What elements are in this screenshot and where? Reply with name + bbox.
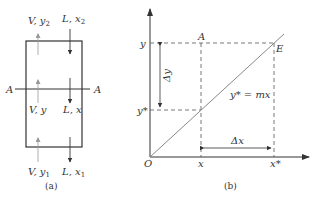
delta-x-label: Δx — [230, 135, 244, 146]
point-a-label: A — [197, 31, 205, 42]
origin-label: O — [144, 158, 152, 169]
x-label: x — [198, 158, 204, 169]
ystar-label: y* — [136, 105, 148, 116]
mid-vapor-label: V, y — [29, 104, 47, 115]
panel-b-operating-line-graph: O y y* x x* A E Δy Δx y* = mx (b) — [136, 9, 309, 191]
bottom-liquid-label: L, x1 — [61, 166, 85, 179]
top-liquid-label: L, x2 — [61, 13, 85, 26]
y-label: y — [139, 38, 146, 49]
point-e-label: E — [275, 43, 284, 54]
panel-a-column-diagram: A A V, y2 L, x2 V, y L, x V, y1 L, x1 (a… — [5, 13, 101, 191]
section-label-right: A — [93, 84, 101, 95]
column-box — [26, 41, 82, 147]
xstar-label: x* — [270, 158, 281, 169]
diagram-canvas: A A V, y2 L, x2 V, y L, x V, y1 L, x1 (a… — [0, 0, 312, 197]
bottom-vapor-label: V, y1 — [28, 166, 50, 179]
top-vapor-label: V, y2 — [28, 15, 50, 28]
equation-label: y* = mx — [229, 89, 271, 100]
caption-b: (b) — [224, 181, 237, 191]
delta-y-label: Δy — [161, 69, 172, 83]
mid-liquid-label: L, x — [62, 104, 82, 115]
caption-a: (a) — [45, 181, 57, 191]
section-label-left: A — [5, 84, 13, 95]
